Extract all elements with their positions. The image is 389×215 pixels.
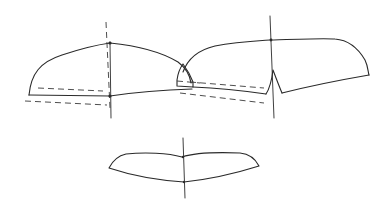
right-center-line [270,16,274,118]
right-outer-dashed-line [180,93,264,103]
left-top-point [108,41,111,44]
left-pattern-piece [25,22,192,118]
left-outer-dashed-line [25,101,107,105]
right-top-point [270,39,273,42]
sleeve-bottom-point [183,181,185,183]
sleeve-pattern-piece [109,138,259,198]
right-piece-dart [266,70,282,94]
pattern-drafting-diagram [0,0,389,215]
left-bottom-point [108,94,111,97]
right-piece-left-hem [193,87,266,94]
overlap-dashed-line [177,81,200,83]
diagram-svg [0,0,389,215]
right-pattern-piece [180,16,369,118]
left-inner-dashed-line [38,88,103,91]
right-piece-top-outline [183,39,369,75]
right-piece-hem [282,75,369,93]
sleeve-top-point [182,156,184,158]
sleeve-center-line [183,138,185,198]
